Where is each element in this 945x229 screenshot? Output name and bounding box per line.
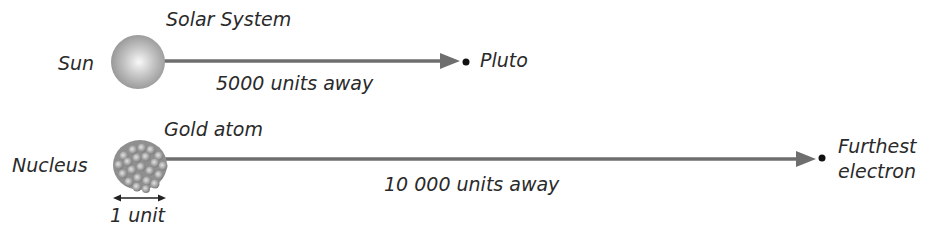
electron-dot-icon xyxy=(819,155,826,162)
gold-atom-row: Gold atom Nucleus xyxy=(12,118,918,226)
furthest-electron-label-line1: Furthest xyxy=(838,135,918,157)
atom-arrowhead-icon xyxy=(796,151,816,167)
atom-distance-label: 10 000 units away xyxy=(384,173,560,195)
solar-distance-label: 5000 units away xyxy=(216,72,374,94)
gold-atom-title: Gold atom xyxy=(164,118,263,140)
sun-label: Sun xyxy=(58,52,94,74)
solar-system-row: Solar System Sun Pluto 5000 units away xyxy=(58,8,528,94)
unit-scale-label: 1 unit xyxy=(110,204,166,226)
pluto-label: Pluto xyxy=(480,49,528,71)
solar-arrowhead-icon xyxy=(440,53,460,69)
nucleus-icon xyxy=(113,140,168,193)
scale-comparison-diagram: Solar System Sun Pluto 5000 units away G… xyxy=(0,0,945,229)
nucleus-label: Nucleus xyxy=(12,154,88,176)
furthest-electron-label-line2: electron xyxy=(838,160,916,182)
pluto-dot-icon xyxy=(463,59,470,66)
sun-icon xyxy=(111,35,165,89)
solar-system-title: Solar System xyxy=(166,8,291,30)
unit-scale-arrow-icon xyxy=(113,195,166,202)
